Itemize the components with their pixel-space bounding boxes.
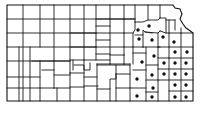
county-marker-dot bbox=[136, 28, 139, 31]
county-marker-dot bbox=[185, 50, 188, 53]
county-marker-dot bbox=[173, 95, 176, 98]
county-marker-dot bbox=[162, 72, 165, 75]
county-marker-dot bbox=[151, 86, 154, 89]
county-marker-dot bbox=[184, 83, 187, 86]
county-marker-dot bbox=[147, 24, 150, 27]
county-marker-dot bbox=[173, 83, 176, 86]
county-marker-dot bbox=[173, 61, 176, 64]
county-marker-dot bbox=[152, 54, 155, 57]
county-marker-dot bbox=[184, 72, 187, 75]
county-marker-dot bbox=[137, 37, 140, 40]
kansas-county-map bbox=[0, 0, 201, 115]
county-marker-dot bbox=[184, 95, 187, 98]
county-marker-dot bbox=[173, 50, 176, 53]
county-marker-dot bbox=[140, 60, 143, 63]
county-marker-dot bbox=[135, 94, 138, 97]
county-marker-dot bbox=[184, 61, 187, 64]
county-marker-dot bbox=[150, 38, 153, 41]
county-marker-dot bbox=[150, 73, 153, 76]
county-marker-dot bbox=[173, 72, 176, 75]
county-marker-dot bbox=[172, 40, 175, 43]
county-marker-dot bbox=[161, 35, 164, 38]
county-marker-dot bbox=[150, 95, 153, 98]
county-marker-dot bbox=[162, 61, 165, 64]
county-marker-dot bbox=[135, 77, 138, 80]
